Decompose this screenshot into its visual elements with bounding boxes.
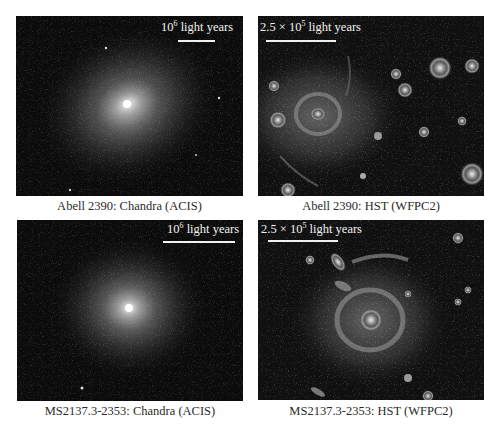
image-abell2390-chandra: 106 light years (16, 16, 243, 196)
caption-abell2390-chandra: Abell 2390: Chandra (ACIS) (16, 199, 243, 214)
scale-bar-line (163, 241, 235, 243)
caption-abell2390-hst: Abell 2390: HST (WFPC2) (258, 199, 484, 214)
scale-bar-label: 106 light years (167, 221, 239, 237)
scale-bar-line (266, 40, 336, 42)
scale-bar-line (268, 240, 338, 242)
image-abell2390-hst: 2.5 × 105 light years (258, 16, 484, 196)
optical-galaxy-field (258, 220, 484, 400)
xray-cluster-emission (16, 16, 243, 196)
scale-bar-label: 106 light years (161, 19, 233, 35)
image-ms2137-chandra: 106 light years (17, 220, 243, 401)
optical-galaxy-field (258, 16, 484, 196)
scale-bar-label: 2.5 × 105 light years (260, 19, 361, 35)
scale-bar-line (178, 40, 215, 42)
image-ms2137-hst: 2.5 × 105 light years (258, 220, 484, 400)
xray-cluster-emission (17, 220, 243, 401)
caption-ms2137-hst: MS2137.3-2353: HST (WFPC2) (258, 404, 484, 419)
scale-bar-label: 2.5 × 105 light years (261, 221, 362, 237)
caption-ms2137-chandra: MS2137.3-2353: Chandra (ACIS) (17, 404, 243, 419)
